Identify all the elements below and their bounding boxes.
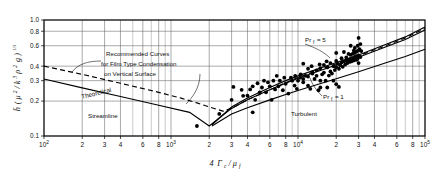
chart-background — [0, 0, 437, 173]
y-tick-label: 0.6 — [30, 42, 39, 49]
x-tick-label: 6 — [141, 141, 145, 148]
x-tick-label: 4 — [373, 141, 377, 148]
pr1-tail: = 1 — [335, 93, 344, 100]
data-point — [349, 44, 353, 48]
data-point — [295, 87, 299, 91]
data-point — [332, 79, 336, 83]
ylabel-mu-sup: 2 — [12, 90, 18, 93]
data-point — [318, 66, 322, 70]
data-point — [301, 77, 305, 81]
y-tick-label: 1.0 — [30, 16, 39, 23]
data-point — [195, 124, 199, 128]
data-point — [313, 77, 317, 81]
x-tick-label: 8 — [284, 141, 288, 148]
data-point — [301, 62, 305, 66]
data-point — [299, 72, 303, 76]
data-point — [264, 90, 268, 94]
data-point — [282, 76, 286, 80]
data-point — [318, 62, 322, 66]
data-point — [359, 42, 363, 46]
data-point — [253, 98, 257, 102]
data-point — [248, 88, 252, 92]
data-point — [260, 86, 264, 90]
ylabel-slash: / — [13, 85, 22, 89]
ylabel-close: ) — [13, 53, 22, 57]
data-point — [357, 61, 361, 65]
y-tick-label: 0.8 — [30, 28, 39, 35]
condensation-chart: 102234681032346810423468105 0.10.20.30.4… — [0, 0, 437, 173]
recommended-line-2: for Film Type Condensation — [101, 60, 177, 67]
pr1-text: Pr — [323, 93, 329, 100]
data-point — [359, 55, 363, 59]
xlabel-slash: / — [227, 159, 231, 168]
data-point — [325, 66, 329, 70]
ylabel-g: g — [13, 58, 22, 62]
data-point — [330, 72, 334, 76]
xlabel-four: 4 — [210, 159, 214, 168]
data-point — [324, 79, 328, 83]
recommended-line-1: Recommended Curves — [106, 50, 169, 57]
ylabel-rho: ρ — [13, 70, 22, 75]
x-tick-label: 6 — [268, 141, 272, 148]
ylabel-mu: μ — [13, 95, 22, 100]
pr5-sub: f — [313, 40, 315, 45]
data-point — [251, 110, 255, 114]
x-tick-label: 8 — [157, 141, 161, 148]
data-point — [256, 81, 260, 85]
figure-container: 102234681032346810423468105 0.10.20.30.4… — [0, 0, 437, 173]
data-point — [329, 61, 333, 65]
data-point — [311, 72, 315, 76]
data-point — [334, 82, 338, 86]
ylabel-open: ( — [13, 100, 22, 104]
data-point — [232, 85, 236, 89]
data-point — [241, 94, 245, 98]
data-point — [284, 82, 288, 86]
data-point — [293, 74, 297, 78]
data-point — [275, 74, 279, 78]
pr5-text: Pr — [305, 36, 311, 43]
data-point — [315, 68, 319, 72]
data-point — [355, 58, 359, 62]
data-point — [289, 76, 293, 80]
x-tick-label: 4 — [119, 141, 123, 148]
data-point — [281, 88, 285, 92]
data-point — [359, 49, 363, 53]
xlabel-mu: μ — [232, 159, 237, 168]
ylabel-k: k — [13, 80, 22, 84]
data-point — [357, 36, 361, 40]
data-point — [352, 49, 356, 53]
data-point — [306, 75, 310, 79]
data-point — [342, 50, 346, 54]
data-point — [240, 88, 244, 92]
data-point — [344, 56, 348, 60]
data-point — [270, 98, 274, 102]
data-point — [251, 84, 255, 88]
data-point — [217, 112, 221, 116]
x-tick-label: 2 — [334, 141, 338, 148]
pr1-sub: f — [331, 97, 333, 102]
x-tick-label: 2 — [207, 141, 211, 148]
data-point — [315, 74, 319, 78]
x-tick-label: 3 — [103, 141, 107, 148]
data-point — [276, 84, 280, 88]
data-point — [340, 56, 344, 60]
data-point — [306, 84, 310, 88]
data-point — [325, 86, 329, 90]
x-tick-label: 3 — [357, 141, 361, 148]
annotation-turbulent: Turbulent — [291, 110, 317, 117]
data-point — [286, 92, 290, 96]
x-tick-label: 8 — [411, 141, 415, 148]
xlabel-gamma-sub: c — [224, 163, 227, 169]
ylabel-k-sup: 3 — [12, 75, 18, 79]
y-tick-label: 0.3 — [30, 77, 39, 84]
data-point — [325, 59, 329, 63]
data-point — [322, 63, 326, 67]
data-point — [306, 67, 310, 71]
x-tick-label: 4 — [246, 141, 250, 148]
data-point — [318, 79, 322, 83]
data-point — [258, 90, 262, 94]
data-point — [310, 64, 314, 68]
data-point — [278, 79, 282, 83]
ylabel-exp: 1/3 — [12, 44, 17, 51]
data-point — [273, 88, 277, 92]
